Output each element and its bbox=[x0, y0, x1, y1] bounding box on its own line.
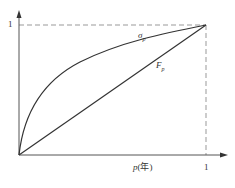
x-axis-unit: (年) bbox=[138, 162, 153, 172]
sigma-subscript: p bbox=[142, 36, 145, 42]
chart-plot bbox=[0, 0, 235, 188]
y-axis-arrow-icon bbox=[17, 10, 22, 18]
x-axis-label: p(年) bbox=[133, 163, 153, 172]
chart-container: 1 1 p(年) σp Fp bbox=[0, 0, 235, 188]
f-subscript: p bbox=[162, 66, 165, 72]
series-f-p-line bbox=[19, 25, 206, 155]
f-p-label: Fp bbox=[156, 61, 165, 72]
x-tick-label: 1 bbox=[204, 163, 209, 172]
sigma-p-label: σp bbox=[138, 31, 145, 42]
y-tick-label: 1 bbox=[8, 20, 13, 29]
x-axis-arrow-icon bbox=[220, 153, 228, 158]
